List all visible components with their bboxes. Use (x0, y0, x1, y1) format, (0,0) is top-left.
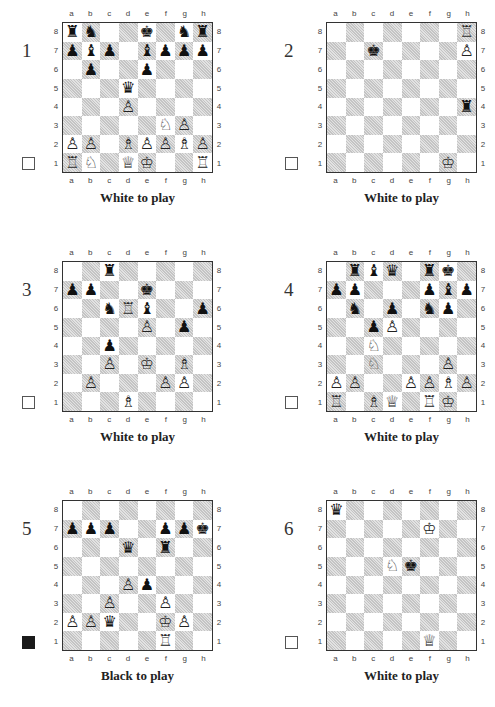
square-h8[interactable] (193, 501, 212, 520)
square-c2[interactable] (100, 374, 119, 393)
square-a3[interactable] (327, 355, 346, 374)
square-f8[interactable]: ♜ (420, 262, 439, 281)
square-g8[interactable] (439, 501, 458, 520)
square-e7[interactable] (138, 520, 157, 539)
square-a5[interactable] (63, 557, 82, 576)
checkbox-white-to-move[interactable] (22, 396, 35, 409)
square-f6[interactable] (156, 299, 175, 318)
square-b6[interactable] (82, 538, 101, 557)
square-h3[interactable] (193, 355, 212, 374)
square-f4[interactable] (420, 98, 439, 117)
square-c4[interactable]: ♘ (364, 337, 383, 356)
square-e1[interactable] (402, 631, 421, 650)
square-g2[interactable] (439, 613, 458, 632)
square-a2[interactable]: ♙ (63, 613, 82, 632)
square-f7[interactable]: ♟ (420, 281, 439, 300)
square-f1[interactable]: ♖ (156, 631, 175, 650)
square-e4[interactable] (138, 337, 157, 356)
square-c2[interactable]: ♛ (100, 613, 119, 632)
square-a1[interactable] (63, 392, 82, 411)
square-g1[interactable] (175, 392, 194, 411)
square-a1[interactable]: ♖ (327, 392, 346, 411)
square-f6[interactable]: ♜ (156, 538, 175, 557)
white-pawn-icon[interactable]: ♙ (460, 375, 474, 391)
black-bishop-icon[interactable]: ♝ (366, 263, 380, 279)
square-g5[interactable] (175, 557, 194, 576)
black-queen-icon[interactable]: ♛ (102, 614, 116, 630)
square-h1[interactable] (457, 631, 476, 650)
square-g3[interactable]: ♗ (175, 355, 194, 374)
white-bishop-icon[interactable]: ♗ (441, 375, 455, 391)
square-d6[interactable]: ♛ (119, 538, 138, 557)
square-h2[interactable] (457, 613, 476, 632)
square-g6[interactable] (175, 299, 194, 318)
black-rook-icon[interactable]: ♜ (158, 540, 172, 556)
square-f8[interactable] (156, 501, 175, 520)
square-b8[interactable] (346, 501, 365, 520)
square-b2[interactable] (346, 135, 365, 154)
square-c8[interactable] (364, 501, 383, 520)
square-b6[interactable]: ♞ (346, 299, 365, 318)
square-g6[interactable]: ♟ (439, 299, 458, 318)
white-queen-icon[interactable]: ♕ (385, 394, 399, 410)
square-e7[interactable] (402, 42, 421, 61)
square-a7[interactable] (327, 520, 346, 539)
checkbox-white-to-move[interactable] (285, 157, 298, 170)
square-d7[interactable] (119, 281, 138, 300)
square-d6[interactable]: ♟ (383, 299, 402, 318)
square-a1[interactable] (327, 631, 346, 650)
square-e5[interactable] (138, 557, 157, 576)
square-f4[interactable] (420, 576, 439, 595)
square-b1[interactable] (82, 392, 101, 411)
square-h4[interactable] (457, 337, 476, 356)
white-king-icon[interactable]: ♔ (140, 356, 154, 372)
square-c1[interactable] (100, 631, 119, 650)
black-king-icon[interactable]: ♚ (140, 282, 154, 298)
square-h6[interactable]: ♟ (193, 299, 212, 318)
square-c7[interactable] (364, 281, 383, 300)
square-f4[interactable] (156, 576, 175, 595)
square-f5[interactable] (156, 557, 175, 576)
square-h4[interactable] (457, 576, 476, 595)
square-h1[interactable] (193, 392, 212, 411)
square-g4[interactable] (439, 576, 458, 595)
square-d1[interactable] (119, 631, 138, 650)
square-g3[interactable] (175, 594, 194, 613)
square-h1[interactable] (193, 631, 212, 650)
square-d1[interactable]: ♗ (119, 392, 138, 411)
square-d4[interactable] (383, 576, 402, 595)
chess-board[interactable]: ♟♟♟♟♟♚♛♜♙♟♙♙♙♙♛♔♙♖ (62, 500, 213, 651)
square-f7[interactable] (420, 42, 439, 61)
square-h5[interactable] (457, 557, 476, 576)
square-a4[interactable] (327, 576, 346, 595)
square-e8[interactable] (402, 501, 421, 520)
square-b7[interactable] (346, 520, 365, 539)
square-d7[interactable] (383, 520, 402, 539)
square-a6[interactable] (63, 538, 82, 557)
square-c2[interactable] (364, 613, 383, 632)
square-c8[interactable]: ♝ (364, 262, 383, 281)
square-g5[interactable] (439, 318, 458, 337)
square-a7[interactable]: ♟ (63, 281, 82, 300)
square-c4[interactable] (364, 98, 383, 117)
square-f3[interactable] (420, 594, 439, 613)
square-c4[interactable] (364, 576, 383, 595)
square-f5[interactable] (420, 557, 439, 576)
square-h7[interactable] (193, 281, 212, 300)
square-h6[interactable] (457, 299, 476, 318)
square-e2[interactable] (402, 613, 421, 632)
black-bishop-icon[interactable]: ♝ (140, 301, 154, 317)
white-rook-icon[interactable]: ♖ (460, 24, 474, 40)
square-d8[interactable] (119, 501, 138, 520)
square-g3[interactable] (439, 594, 458, 613)
black-knight-icon[interactable]: ♞ (102, 301, 116, 317)
white-king-icon[interactable]: ♔ (422, 521, 436, 537)
square-c5[interactable] (364, 557, 383, 576)
square-d3[interactable] (383, 116, 402, 135)
square-h2[interactable] (193, 613, 212, 632)
square-h8[interactable] (193, 262, 212, 281)
black-pawn-icon[interactable]: ♟ (84, 282, 98, 298)
white-pawn-icon[interactable]: ♙ (177, 614, 191, 630)
square-f8[interactable] (420, 501, 439, 520)
square-e8[interactable] (138, 501, 157, 520)
